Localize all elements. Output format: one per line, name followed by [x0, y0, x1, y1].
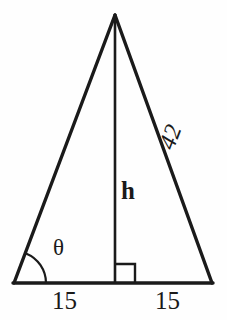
theta-angle-arc [26, 253, 46, 283]
base-right-length-label: 15 [155, 288, 180, 313]
triangle-left-side [14, 15, 115, 283]
triangle-right-side [115, 15, 212, 283]
triangle-drawing-canvas [0, 0, 227, 320]
right-angle-marker [116, 264, 135, 283]
base-left-length-label: 15 [52, 288, 77, 313]
theta-angle-label: θ [53, 236, 64, 259]
geometry-figure: h θ 42 15 15 [0, 0, 227, 320]
height-label: h [121, 178, 135, 203]
